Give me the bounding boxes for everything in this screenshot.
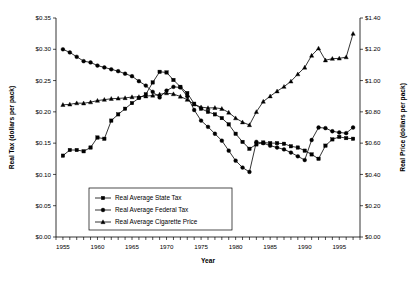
data-point-marker (130, 101, 133, 104)
data-point-marker (317, 157, 320, 160)
legend-item-label: Real Average Cigarette Price (115, 218, 198, 226)
data-point-marker (303, 149, 306, 152)
data-point-marker (324, 144, 327, 147)
data-point-marker (331, 138, 334, 141)
data-point-marker (172, 78, 175, 81)
data-point-marker (296, 146, 299, 149)
data-point-marker (116, 113, 119, 116)
y-tick-label: $0.10 (36, 171, 52, 178)
y2-tick-label: $1.00 (365, 77, 381, 84)
data-point-marker (275, 89, 279, 93)
x-tick-label: 1965 (125, 243, 139, 250)
y-tick-label: $0.00 (36, 233, 52, 240)
data-point-marker (351, 126, 355, 130)
data-point-marker (344, 131, 348, 135)
y-axis-ticks: $0.00$0.05$0.10$0.15$0.20$0.25$0.30$0.35 (36, 14, 56, 240)
data-point-marker (96, 64, 100, 68)
data-point-marker (123, 107, 126, 110)
data-point-marker (172, 85, 176, 89)
data-point-marker (234, 159, 238, 163)
y-tick-label: $0.25 (36, 77, 52, 84)
data-point-marker (254, 140, 258, 144)
data-point-marker (316, 46, 320, 50)
data-point-marker (144, 84, 148, 88)
data-point-marker (82, 150, 85, 153)
data-point-marker (241, 140, 244, 143)
data-point-marker (137, 79, 141, 83)
cigarette-tax-price-chart: $0.00$0.05$0.10$0.15$0.20$0.25$0.30$0.35… (0, 0, 417, 285)
data-point-marker (303, 65, 307, 69)
x-tick-label: 1955 (56, 243, 70, 250)
y2-tick-label: $0.60 (365, 139, 381, 146)
y2-axis-title: Real Price (dollars per pack) (399, 83, 407, 172)
data-point-marker (102, 66, 106, 70)
y2-tick-label: $0.00 (365, 233, 381, 240)
legend-item-label: Real Average Federal Tax (115, 206, 189, 214)
data-point-marker (68, 148, 71, 151)
data-point-marker (192, 108, 196, 112)
data-point-marker (123, 72, 127, 76)
data-point-marker (344, 136, 347, 139)
data-point-marker (317, 126, 321, 130)
data-point-marker (68, 51, 72, 55)
data-point-marker (165, 71, 168, 74)
data-point-marker (109, 67, 113, 71)
data-point-marker (289, 145, 292, 148)
x-tick-label: 1970 (160, 243, 174, 250)
data-point-marker (324, 126, 328, 130)
data-point-marker (213, 113, 216, 116)
data-point-marker (241, 166, 245, 170)
legend-item-label: Real Average State Tax (115, 194, 182, 202)
data-point-marker (351, 31, 355, 35)
data-point-marker (61, 154, 64, 157)
data-point-marker (310, 138, 314, 142)
data-point-marker (275, 141, 278, 144)
data-point-marker (116, 69, 120, 73)
x-tick-label: 1975 (194, 243, 208, 250)
y2-tick-label: $0.40 (365, 171, 381, 178)
data-point-marker (130, 74, 134, 78)
data-point-marker (303, 158, 307, 162)
x-tick-label: 1980 (229, 243, 243, 250)
y2-tick-label: $0.80 (365, 108, 381, 115)
data-point-marker (268, 94, 272, 98)
series-1 (61, 70, 355, 160)
data-point-marker (344, 55, 348, 59)
chart-legend: Real Average State TaxReal Average Feder… (89, 188, 232, 230)
y2-tick-label: $1.20 (365, 45, 381, 52)
y2-tick-label: $0.20 (365, 202, 381, 209)
y-tick-label: $0.05 (36, 202, 52, 209)
x-tick-label: 1995 (332, 243, 346, 250)
data-point-marker (151, 81, 154, 84)
data-point-marker (275, 146, 279, 150)
data-point-marker (206, 110, 209, 113)
data-point-marker (227, 110, 231, 114)
y2-tick-label: $1.40 (365, 14, 381, 21)
y-tick-label: $0.15 (36, 139, 52, 146)
data-point-marker (199, 119, 203, 123)
data-point-marker (220, 139, 224, 143)
data-point-marker (337, 131, 341, 135)
data-point-marker (82, 59, 86, 63)
data-point-marker (96, 136, 99, 139)
data-point-marker (227, 123, 230, 126)
data-point-marker (248, 170, 252, 174)
data-point-marker (351, 137, 354, 140)
x-axis-title: Year (201, 257, 215, 264)
data-point-marker (220, 116, 223, 119)
x-tick-label: 1960 (91, 243, 105, 250)
data-point-marker (61, 47, 65, 51)
data-point-marker (75, 55, 79, 59)
data-point-marker (282, 142, 285, 145)
data-point-marker (89, 146, 92, 149)
data-point-marker (310, 153, 313, 156)
y-axis-title: Real Tax (dollars per pack) (8, 86, 16, 169)
data-point-marker (227, 149, 231, 153)
data-point-marker (89, 61, 93, 65)
data-point-marker (101, 196, 104, 199)
data-point-marker (289, 151, 293, 155)
data-point-marker (178, 86, 182, 90)
data-point-marker (101, 208, 105, 212)
data-point-marker (206, 125, 210, 129)
x-axis-ticks: 195519601965197019751980198519901995 (56, 237, 360, 250)
